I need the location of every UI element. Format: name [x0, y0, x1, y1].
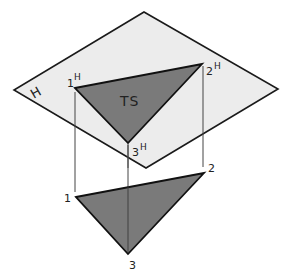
svg-text:H: H: [140, 142, 147, 152]
triangle-pictorial: [76, 173, 204, 254]
svg-text:H: H: [74, 72, 81, 82]
true-size-diagram: H TS 1 H 2 H 3 H 1 2 3: [0, 0, 288, 277]
svg-text:3: 3: [132, 146, 139, 159]
point-label-1: 1: [64, 192, 71, 205]
point-label-3: 3: [129, 259, 136, 272]
svg-text:H: H: [214, 61, 221, 71]
point-label-2: 2: [208, 162, 215, 175]
svg-text:2: 2: [206, 65, 213, 78]
true-size-label: TS: [119, 93, 139, 109]
svg-text:1: 1: [67, 77, 74, 90]
